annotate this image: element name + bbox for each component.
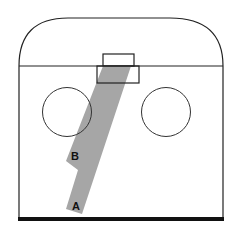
faceoff-circle-left xyxy=(43,88,92,137)
faceoff-circle-right xyxy=(142,88,191,137)
label-a: A xyxy=(72,200,80,212)
net xyxy=(103,54,134,66)
end-line xyxy=(18,217,224,221)
label-b: B xyxy=(71,150,79,162)
shot-lane xyxy=(66,66,131,214)
rink-diagram: B A xyxy=(0,0,239,233)
rink-outline xyxy=(19,18,223,217)
